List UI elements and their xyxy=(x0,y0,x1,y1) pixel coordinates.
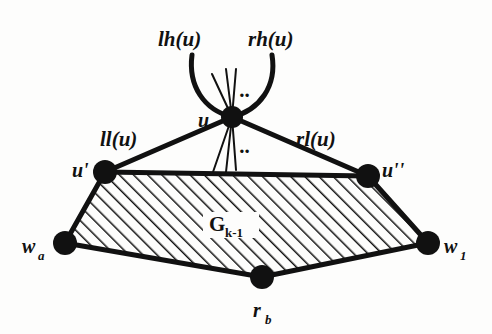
label-lh-u: lh(u) xyxy=(158,27,201,51)
vertex-w-a xyxy=(53,231,77,255)
label-ll-u: ll(u) xyxy=(100,127,137,151)
label-w-a-base: w xyxy=(22,235,36,257)
vertex-u xyxy=(221,106,243,128)
label-w-1-base: w xyxy=(444,235,458,257)
label-r-b-sub: b xyxy=(265,312,272,327)
label-u: u xyxy=(198,109,209,131)
vertex-u-double-prime xyxy=(356,164,380,188)
vertex-u-prime xyxy=(93,160,117,184)
ellipsis-lower: .. xyxy=(240,134,251,158)
label-r-b-base: r xyxy=(253,299,261,321)
label-w-1-sub: 1 xyxy=(460,248,467,263)
label-rh-u: rh(u) xyxy=(248,27,294,51)
label-rl-u: rl(u) xyxy=(296,127,336,151)
label-g-sub: k-1 xyxy=(225,225,243,240)
ellipsis-upper: .. xyxy=(240,78,251,102)
vertex-w-1 xyxy=(416,231,440,255)
label-g-base: G xyxy=(209,212,225,236)
label-u-prime: u' xyxy=(72,159,89,181)
graph-diagram-figure: lh(u) rh(u) ll(u) rl(u) u u' u'' w a w 1… xyxy=(0,0,492,334)
label-w-a-sub: a xyxy=(38,248,45,263)
label-g-k-minus-1: G k-1 xyxy=(203,212,259,240)
vertex-r-b xyxy=(250,265,274,289)
label-u-double-prime: u'' xyxy=(382,159,405,181)
